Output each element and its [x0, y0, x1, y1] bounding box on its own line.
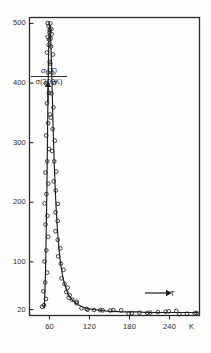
y-axis-label: σ (T) σ(300K)	[31, 66, 67, 86]
curve-falling-branch	[50, 25, 198, 313]
data-point	[62, 268, 66, 272]
x-tick-label-240: 240	[156, 322, 184, 331]
x-tick-label-120: 120	[76, 322, 104, 331]
y-tick-label-500: 500	[2, 18, 26, 27]
plot-frame-border	[30, 18, 200, 316]
x-tick-label-60: 60	[36, 322, 64, 331]
x-axis-unit-label: K	[189, 322, 194, 331]
x-tick-label-180: 180	[116, 322, 144, 331]
data-point	[56, 202, 60, 206]
x-axis-direction-arrow	[145, 290, 172, 296]
figure-panel: 50040030020010020 60120180240 σ (T) σ(30…	[0, 0, 211, 353]
data-point	[46, 235, 50, 239]
y-tick-label-20: 20	[2, 305, 26, 314]
y-tick-label-100: 100	[2, 257, 26, 266]
y-tick-label-400: 400	[2, 78, 26, 87]
data-point	[54, 229, 58, 233]
x-axis-variable-label: T	[170, 289, 175, 298]
y-tick-label-200: 200	[2, 197, 26, 206]
y-axis-label-numerator: σ (T)	[31, 66, 67, 76]
y-tick-label-300: 300	[2, 138, 26, 147]
plot-frame	[30, 18, 200, 316]
data-curve-group	[44, 23, 198, 312]
y-axis-label-denominator: σ(300K)	[31, 77, 67, 87]
conductivity-vs-temperature-plot	[0, 0, 211, 353]
data-point	[43, 202, 47, 206]
